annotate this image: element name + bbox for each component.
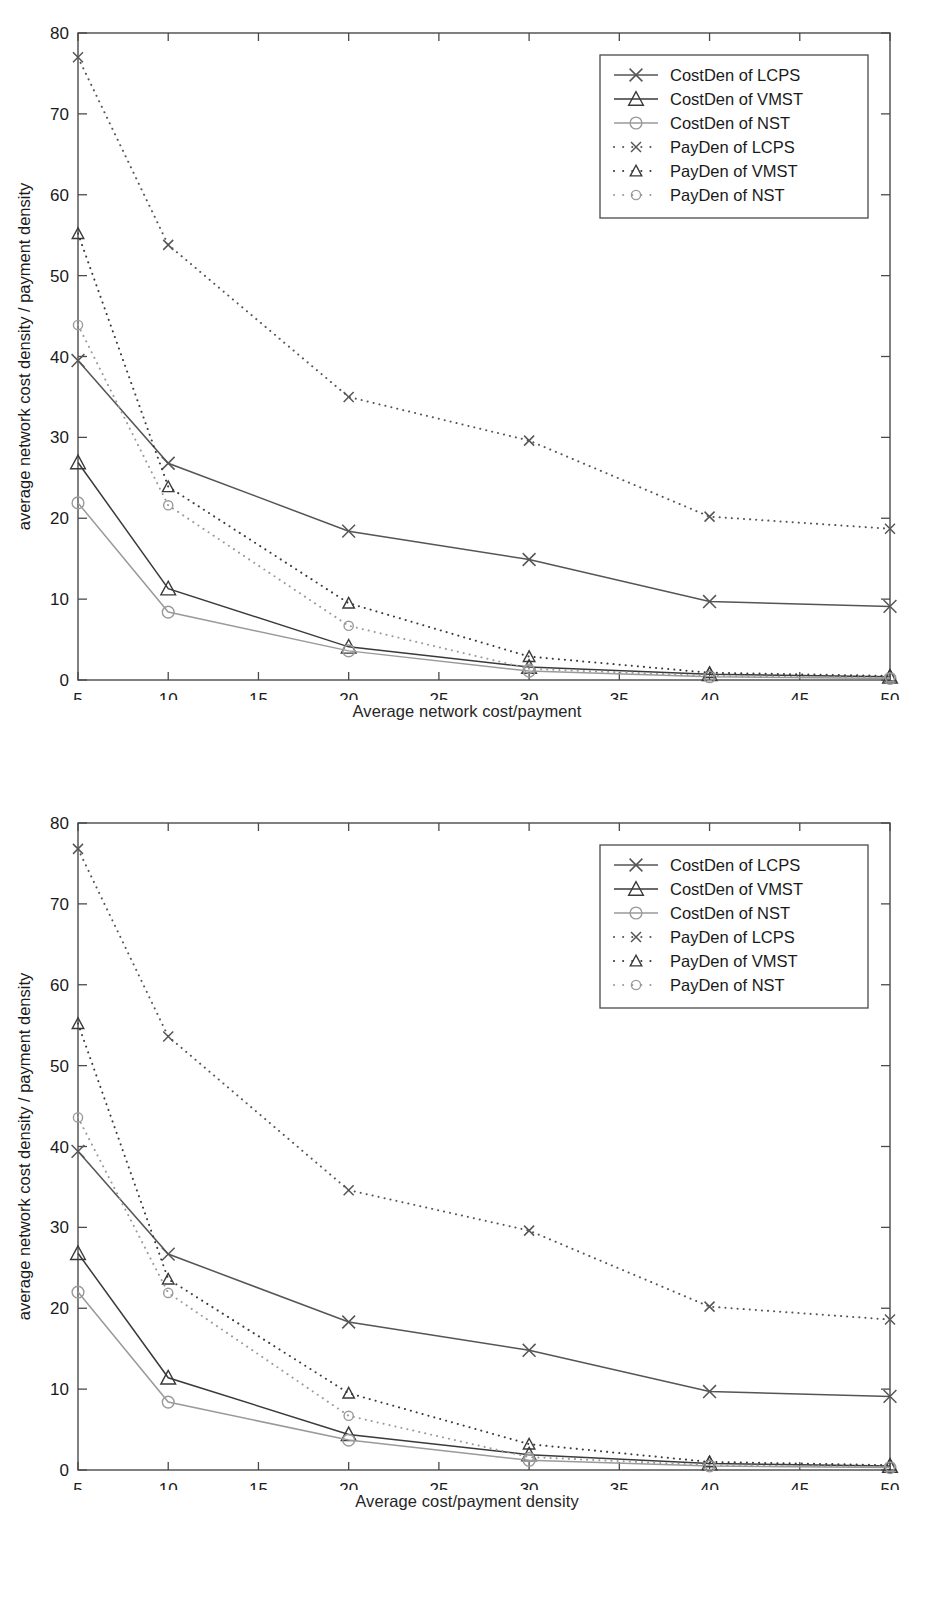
y-axis-label-group: average network cost density / payment d… [15, 972, 33, 1320]
y-tick-label: 60 [50, 976, 69, 995]
series-costden-of-nst [72, 497, 896, 684]
chart-1-svg: 510152025303540455001020304050607080numb… [0, 0, 928, 700]
x-tick-label: 15 [249, 690, 268, 700]
marker-triangle [162, 1273, 174, 1284]
marker-triangle [343, 1387, 355, 1398]
x-tick-label: 50 [881, 690, 900, 700]
series-line [78, 325, 890, 678]
y-tick-label: 40 [50, 1138, 69, 1157]
legend-label: PayDen of LCPS [670, 928, 795, 946]
x-tick-label: 35 [610, 690, 629, 700]
series-payden-of-vmst [72, 228, 896, 681]
series-line [78, 361, 890, 607]
figure-average-cost-payment-density: 510152025303540455001020304050607080numb… [0, 790, 928, 1597]
series-costden-of-vmst [71, 455, 898, 683]
legend-item[interactable]: CostDen of LCPS [614, 66, 800, 84]
y-axis-label-group: average network cost density / payment d… [15, 182, 33, 530]
x-tick-label: 45 [790, 1480, 809, 1490]
chart-1-caption: Average network cost/payment [0, 702, 928, 721]
chart-legend: CostDen of LCPSCostDen of VMSTCostDen of… [600, 845, 868, 1008]
x-tick-label: 5 [73, 1480, 82, 1490]
x-tick-label: 40 [700, 1480, 719, 1490]
y-tick-label: 70 [50, 105, 69, 124]
legend-label: CostDen of LCPS [670, 66, 800, 84]
y-tick-label: 60 [50, 186, 69, 205]
y-axis-label: average network cost density / payment d… [15, 972, 33, 1320]
y-tick-label: 0 [60, 1461, 69, 1480]
series-costden-of-lcps [72, 1145, 897, 1403]
x-tick-label: 20 [339, 690, 358, 700]
y-tick-label: 70 [50, 895, 69, 914]
chart-2-svg: 510152025303540455001020304050607080numb… [0, 790, 928, 1490]
legend-item[interactable]: CostDen of LCPS [614, 856, 800, 874]
legend-label: CostDen of VMST [670, 880, 803, 898]
y-tick-label: 80 [50, 24, 69, 43]
series-payden-of-nst [73, 320, 894, 682]
series-costden-of-nst [72, 1286, 896, 1473]
y-tick-label: 30 [50, 1218, 69, 1237]
legend-label: CostDen of VMST [670, 90, 803, 108]
y-axis-label: average network cost density / payment d… [15, 182, 33, 530]
marker-circle [164, 1288, 173, 1297]
x-tick-label: 5 [73, 690, 82, 700]
x-tick-label: 10 [159, 690, 178, 700]
x-tick-label: 40 [700, 690, 719, 700]
series-line [78, 1253, 890, 1466]
y-tick-label: 50 [50, 267, 69, 286]
chart-2-plot-area: 510152025303540455001020304050607080numb… [0, 790, 928, 1490]
x-tick-label: 50 [881, 1480, 900, 1490]
series-costden-of-vmst [71, 1246, 898, 1472]
y-tick-label: 50 [50, 1057, 69, 1076]
y-tick-label: 20 [50, 509, 69, 528]
series-line [78, 462, 890, 676]
y-tick-label: 0 [60, 671, 69, 690]
y-tick-label: 40 [50, 348, 69, 367]
x-tick-label: 45 [790, 690, 809, 700]
series-line [78, 234, 890, 676]
series-line [78, 1151, 890, 1396]
x-tick-label: 30 [520, 1480, 539, 1490]
x-tick-label: 25 [429, 1480, 448, 1490]
series-line [78, 1024, 890, 1466]
marker-circle [344, 621, 353, 630]
figure-average-network-cost-payment: 510152025303540455001020304050607080numb… [0, 0, 928, 790]
series-line [78, 1117, 890, 1466]
legend-label: PayDen of VMST [670, 952, 797, 970]
legend-label: CostDen of NST [670, 904, 790, 922]
y-tick-label: 10 [50, 590, 69, 609]
x-tick-label: 15 [249, 1480, 268, 1490]
chart-legend: CostDen of LCPSCostDen of VMSTCostDen of… [600, 55, 868, 218]
legend-label: PayDen of LCPS [670, 138, 795, 156]
chart-2-caption: Average cost/payment density [0, 1492, 928, 1511]
y-tick-label: 80 [50, 814, 69, 833]
marker-triangle [343, 597, 355, 608]
y-tick-label: 20 [50, 1299, 69, 1318]
series-line [78, 503, 890, 679]
series-payden-of-nst [73, 1113, 894, 1472]
legend-label: PayDen of NST [670, 186, 785, 204]
legend-label: PayDen of VMST [670, 162, 797, 180]
y-tick-label: 30 [50, 428, 69, 447]
x-tick-label: 20 [339, 1480, 358, 1490]
series-line [78, 1292, 890, 1468]
x-tick-label: 25 [429, 690, 448, 700]
y-tick-label: 10 [50, 1380, 69, 1399]
x-tick-label: 30 [520, 690, 539, 700]
x-tick-label: 10 [159, 1480, 178, 1490]
legend-label: CostDen of NST [670, 114, 790, 132]
x-tick-label: 35 [610, 1480, 629, 1490]
series-payden-of-vmst [72, 1018, 896, 1470]
legend-label: PayDen of NST [670, 976, 785, 994]
series-costden-of-lcps [72, 354, 897, 613]
chart-1-plot-area: 510152025303540455001020304050607080numb… [0, 0, 928, 700]
legend-label: CostDen of LCPS [670, 856, 800, 874]
